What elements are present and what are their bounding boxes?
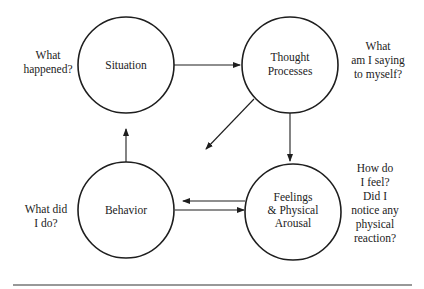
question-situation-line1: What — [36, 49, 62, 61]
question-feelings-line4: notice any — [351, 204, 399, 217]
node-behavior: Behavior — [78, 162, 174, 258]
question-situation: What happened? — [23, 49, 72, 76]
question-feelings-line1: How do — [357, 162, 394, 174]
node-feelings-label-line2: & Physical — [268, 204, 319, 217]
edge-thought-to-behavior — [206, 99, 254, 149]
node-behavior-label: Behavior — [105, 204, 147, 216]
question-behavior-line1: What did — [25, 203, 68, 215]
question-thought-line1: What — [366, 40, 392, 52]
node-thought-label-line1: Thought — [271, 51, 311, 64]
question-behavior: What did I do? — [25, 203, 68, 229]
question-thought-line3: to myself? — [354, 68, 402, 81]
question-feelings-line2: I feel? — [360, 176, 389, 188]
node-feelings-label-line3: Arousal — [275, 217, 311, 229]
node-thought: Thought Processes — [242, 17, 338, 113]
node-situation-label: Situation — [105, 59, 147, 71]
question-thought: What am I saying to myself? — [351, 40, 405, 81]
node-feelings: Feelings & Physical Arousal — [245, 164, 341, 260]
question-feelings-line6: reaction? — [354, 232, 396, 244]
question-feelings: How do I feel? Did I notice any physical… — [351, 162, 399, 244]
question-behavior-line2: I do? — [34, 217, 57, 229]
node-feelings-label-line1: Feelings — [274, 191, 313, 204]
question-thought-line2: am I saying — [351, 54, 405, 67]
cbt-cycle-diagram: Situation Thought Processes Behavior Fee… — [0, 0, 424, 289]
question-feelings-line5: physical — [356, 218, 394, 231]
question-feelings-line3: Did I — [363, 190, 387, 202]
node-thought-label-line2: Processes — [268, 65, 313, 77]
question-situation-line2: happened? — [23, 63, 72, 76]
node-situation: Situation — [78, 17, 174, 113]
